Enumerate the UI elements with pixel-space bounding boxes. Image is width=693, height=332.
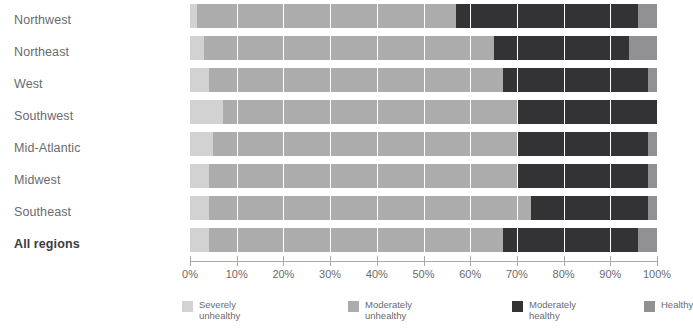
category-label: Northeast	[14, 36, 180, 68]
bar-segment	[517, 132, 648, 156]
bar-segment	[648, 68, 657, 92]
bar-segment	[197, 4, 456, 28]
bar-segment	[190, 36, 204, 60]
chart-legend: Severely unhealthyModerately unhealthyMo…	[182, 300, 662, 330]
legend-item[interactable]: Moderately healthy	[512, 300, 576, 321]
bar-track	[190, 132, 657, 156]
bar-segment	[190, 196, 209, 220]
x-axis: 0%10%20%30%40%50%60%70%80%90%100%	[190, 261, 657, 291]
bar-row	[190, 100, 657, 124]
x-tick-label: 50%	[404, 268, 444, 280]
bar-segment	[517, 164, 648, 188]
gridline	[657, 0, 658, 256]
category-label: All regions	[14, 228, 180, 260]
bar-track	[190, 68, 657, 92]
x-tick-label: 40%	[357, 268, 397, 280]
bar-row	[190, 164, 657, 188]
plot-area	[190, 0, 657, 256]
tick-mark	[610, 261, 611, 266]
tick-mark	[564, 261, 565, 266]
category-label: Northwest	[14, 4, 180, 36]
legend-label: Healthy	[661, 300, 693, 311]
bar-row	[190, 36, 657, 60]
bar-track	[190, 100, 657, 124]
x-tick-label: 0%	[170, 268, 210, 280]
legend-swatch-icon	[182, 301, 193, 312]
bar-track	[190, 164, 657, 188]
legend-item[interactable]: Healthy	[644, 300, 693, 312]
category-label: Southwest	[14, 100, 180, 132]
bar-segment	[648, 196, 657, 220]
x-tick-label: 90%	[590, 268, 630, 280]
tick-mark	[517, 261, 518, 266]
category-axis: NorthwestNortheastWestSouthwestMid-Atlan…	[0, 0, 180, 256]
tick-mark	[657, 261, 658, 266]
bar-segment	[209, 68, 503, 92]
bar-segment	[190, 132, 213, 156]
bar-segment	[204, 36, 494, 60]
bar-segment	[531, 196, 648, 220]
legend-label: Moderately unhealthy	[365, 300, 412, 321]
bar-segment	[503, 228, 638, 252]
bar-track	[190, 228, 657, 252]
bar-row	[190, 132, 657, 156]
tick-mark	[470, 261, 471, 266]
x-tick-label: 60%	[450, 268, 490, 280]
tick-mark	[190, 261, 191, 266]
bar-segment	[190, 228, 209, 252]
bar-segment	[638, 4, 657, 28]
legend-item[interactable]: Severely unhealthy	[182, 300, 240, 321]
x-tick-label: 20%	[263, 268, 303, 280]
bar-row	[190, 196, 657, 220]
category-label: Mid-Atlantic	[14, 132, 180, 164]
x-tick-label: 10%	[217, 268, 257, 280]
bar-segment	[638, 228, 657, 252]
legend-swatch-icon	[348, 301, 359, 312]
bar-segment	[209, 228, 503, 252]
legend-swatch-icon	[644, 301, 655, 312]
bar-segment	[213, 132, 517, 156]
bar-segment	[190, 68, 209, 92]
tick-mark	[424, 261, 425, 266]
tick-mark	[237, 261, 238, 266]
bar-row	[190, 4, 657, 28]
bar-row	[190, 68, 657, 92]
bar-segment	[209, 196, 531, 220]
legend-item[interactable]: Moderately unhealthy	[348, 300, 412, 321]
bar-segment	[456, 4, 638, 28]
x-tick-label: 70%	[497, 268, 537, 280]
bar-segment	[494, 36, 629, 60]
legend-label: Moderately healthy	[529, 300, 576, 321]
bar-segment	[503, 68, 648, 92]
bar-segment	[648, 132, 657, 156]
bar-track	[190, 196, 657, 220]
bar-track	[190, 36, 657, 60]
category-label: Southeast	[14, 196, 180, 228]
category-label: West	[14, 68, 180, 100]
bar-segment	[190, 4, 197, 28]
tick-mark	[283, 261, 284, 266]
category-label: Midwest	[14, 164, 180, 196]
x-tick-label: 100%	[637, 268, 677, 280]
x-tick-label: 80%	[544, 268, 584, 280]
tick-mark	[330, 261, 331, 266]
bar-segment	[517, 100, 657, 124]
bar-segment	[629, 36, 657, 60]
legend-swatch-icon	[512, 301, 523, 312]
tick-mark	[377, 261, 378, 266]
bar-segment	[190, 164, 209, 188]
bar-segment	[190, 100, 223, 124]
bar-segment	[209, 164, 517, 188]
x-tick-label: 30%	[310, 268, 350, 280]
bar-segment	[223, 100, 517, 124]
legend-label: Severely unhealthy	[199, 300, 240, 321]
bar-segment	[648, 164, 657, 188]
bar-track	[190, 4, 657, 28]
bar-row	[190, 228, 657, 252]
